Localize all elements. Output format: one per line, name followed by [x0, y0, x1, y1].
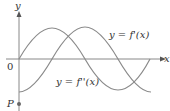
f-prime-label: y = f'(x): [108, 29, 149, 40]
point-p-label: P: [6, 98, 14, 109]
derivative-graph: x y 0 P y = f'(x) y = f''(x): [0, 0, 170, 111]
f-double-prime-label: y = f''(x): [55, 76, 99, 87]
origin-label: 0: [7, 61, 13, 72]
x-axis-label: x: [164, 53, 170, 64]
point-p: [17, 102, 21, 106]
y-axis-arrow-icon: [17, 11, 22, 17]
y-axis-label: y: [14, 0, 21, 11]
